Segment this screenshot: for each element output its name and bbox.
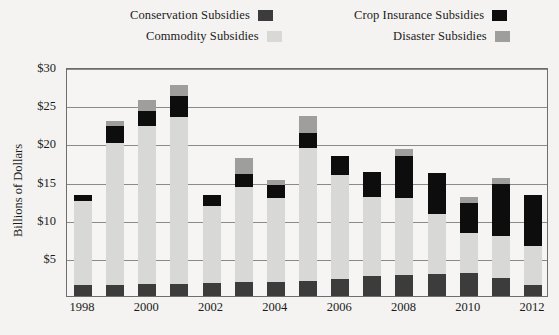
x-axis-tick-label: 2010 [455, 300, 480, 315]
bar-segment [460, 273, 478, 296]
bar-segment [428, 173, 446, 213]
y-axis-tick-label: $5 [44, 251, 57, 266]
legend-swatch-conservation [258, 10, 273, 21]
bar-2008 [395, 149, 413, 296]
bar-segment [267, 185, 285, 199]
bar-2007 [363, 172, 381, 296]
bar-2009 [428, 173, 446, 296]
bar-series-container [67, 69, 547, 296]
bar-2002 [203, 195, 221, 297]
y-axis-tick-label: $25 [37, 99, 56, 114]
bar-segment [524, 285, 542, 296]
bar-segment [331, 279, 349, 296]
bar-segment [492, 236, 510, 278]
x-axis-ticks: 19982000200220042006200820102012 [66, 300, 548, 326]
bar-segment [299, 133, 317, 148]
bar-segment [235, 282, 253, 296]
bar-segment [235, 158, 253, 174]
legend-swatch-commodity [267, 31, 282, 42]
legend-item-conservation: Conservation Subsidies [130, 8, 273, 23]
legend-item-crop-insurance: Crop Insurance Subsidies [354, 8, 507, 23]
bar-segment [331, 156, 349, 174]
bar-2006 [331, 156, 349, 296]
chart-legend: Conservation Subsidies Crop Insurance Su… [0, 6, 559, 50]
bar-2003 [235, 158, 253, 296]
bar-segment [299, 116, 317, 133]
bar-1998 [74, 195, 92, 297]
y-axis-tick-label: $15 [37, 175, 56, 190]
y-axis-ticks: $5$10$15$20$25$30 [0, 68, 62, 297]
bar-segment [428, 214, 446, 274]
bar-segment [395, 198, 413, 274]
bar-segment [74, 285, 92, 296]
y-axis-tick-label: $20 [37, 137, 56, 152]
bar-segment [524, 246, 542, 284]
bar-segment [235, 187, 253, 282]
bar-segment [395, 275, 413, 296]
bar-segment [138, 126, 156, 284]
bar-segment [74, 195, 92, 202]
legend-label-crop-insurance: Crop Insurance Subsidies [354, 8, 484, 23]
bar-segment [203, 283, 221, 296]
bar-segment [267, 198, 285, 281]
plot-area [66, 68, 548, 297]
bar-2005 [299, 116, 317, 296]
bar-2001 [170, 85, 188, 296]
bar-segment [524, 195, 542, 246]
bar-segment [170, 117, 188, 284]
bar-segment [331, 175, 349, 280]
x-axis-tick-label: 2008 [391, 300, 416, 315]
legend-label-commodity: Commodity Subsidies [146, 29, 259, 44]
bar-segment [460, 203, 478, 234]
y-axis-tick-label: $10 [37, 213, 56, 228]
legend-swatch-disaster [495, 31, 510, 42]
bar-segment [74, 201, 92, 284]
bar-segment [203, 206, 221, 283]
bar-segment [460, 233, 478, 273]
bar-segment [299, 281, 317, 296]
bar-segment [363, 276, 381, 296]
legend-label-disaster: Disaster Subsidies [393, 29, 487, 44]
bar-segment [138, 284, 156, 296]
bar-segment [299, 148, 317, 281]
y-axis-tick-label: $30 [37, 61, 56, 76]
bar-2004 [267, 180, 285, 296]
x-axis-tick-label: 2006 [327, 300, 352, 315]
bar-segment [203, 195, 221, 206]
bar-1999 [106, 121, 124, 296]
legend-label-conservation: Conservation Subsidies [130, 8, 250, 23]
bar-2010 [460, 197, 478, 296]
bar-segment [235, 174, 253, 187]
bar-segment [363, 172, 381, 196]
bar-segment [267, 282, 285, 297]
bar-segment [492, 278, 510, 296]
bar-segment [138, 111, 156, 126]
bar-2011 [492, 178, 510, 296]
bar-segment [428, 274, 446, 296]
x-axis-tick-label: 2004 [262, 300, 287, 315]
legend-item-commodity: Commodity Subsidies [146, 29, 282, 44]
bar-2000 [138, 100, 156, 296]
x-axis-tick-label: 2002 [198, 300, 223, 315]
bar-segment [170, 85, 188, 96]
bar-2012 [524, 195, 542, 296]
bar-segment [106, 126, 124, 143]
bar-segment [363, 197, 381, 276]
legend-swatch-crop-insurance [492, 10, 507, 21]
bar-segment [138, 100, 156, 111]
x-axis-tick-label: 2012 [519, 300, 544, 315]
bar-segment [492, 184, 510, 237]
y-axis-title: Billions of Dollars [11, 121, 26, 261]
legend-item-disaster: Disaster Subsidies [393, 29, 510, 44]
x-axis-tick-label: 1998 [70, 300, 95, 315]
x-axis-tick-label: 2000 [134, 300, 159, 315]
bar-segment [170, 284, 188, 296]
bar-segment [395, 156, 413, 199]
bar-segment [106, 285, 124, 296]
bar-segment [106, 143, 124, 285]
bar-segment [170, 96, 188, 117]
